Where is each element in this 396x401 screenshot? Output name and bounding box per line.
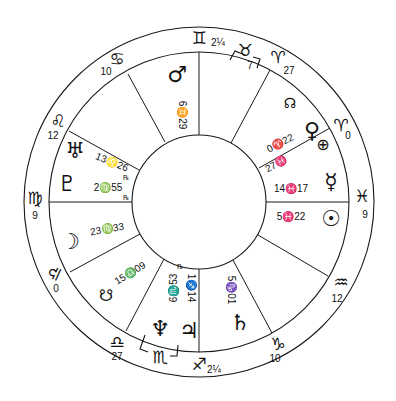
sign-taurus-intercepted: ♉ xyxy=(237,40,252,60)
sign-libra-bottom-degree: 27 xyxy=(111,351,123,362)
sign-capricorn-degree: 10 xyxy=(269,353,281,364)
pluto-position: 2♍55 xyxy=(94,181,123,194)
inner-circle xyxy=(132,135,266,269)
neptune-position: 6♏53 xyxy=(167,273,180,302)
sign-virgo: ♍ xyxy=(27,188,42,208)
sign-taurus-degree: 7 xyxy=(247,60,253,71)
cusp-line-11 xyxy=(231,70,270,143)
natal-chart-wheel: ♊ 2¼ ♉ 7 ♈ 27 ♈ 0 ♓ 9 ♒ 12 ♑ 10 ♐ 2¼ ♏ ♎… xyxy=(0,0,396,401)
jupiter-position: 1♐14 xyxy=(185,274,198,303)
sign-leo: ♌ xyxy=(50,111,65,131)
sign-cancer-degree: 10 xyxy=(100,66,112,77)
mercury-icon: ☿ xyxy=(324,169,338,194)
sun-position: 5♓22 xyxy=(277,210,306,223)
sign-leo-degree: 12 xyxy=(47,130,59,141)
house-cusps xyxy=(49,52,349,352)
sign-cancer: ♋ xyxy=(109,49,124,69)
south-node-position: 15♎09 xyxy=(112,258,148,287)
sign-aries-right-degree: 0 xyxy=(345,130,351,141)
north-node-icon: ☊ xyxy=(284,95,296,111)
sign-pisces-degree: 9 xyxy=(362,209,368,220)
saturn-icon: ♄ xyxy=(230,310,250,335)
sign-aquarius-degree: 12 xyxy=(331,293,343,304)
sign-sagittarius-degree: 2¼ xyxy=(207,364,222,375)
uranus-icon: ♅ xyxy=(65,138,85,163)
pluto-retrograde-mark: ℞ xyxy=(123,194,129,201)
venus-position: 0♈22 xyxy=(264,130,296,155)
sign-virgo-degree: 9 xyxy=(32,210,38,221)
sun-icon: ☉ xyxy=(321,206,341,231)
sign-sagittarius: ♐ xyxy=(191,354,206,374)
saturn-position: 5♑01 xyxy=(225,276,238,305)
sign-scorpio-intercepted: ♏ xyxy=(152,347,167,367)
sign-libra-left-degree: 0 xyxy=(53,283,59,294)
moon-position: 23♍33 xyxy=(89,220,125,239)
part-of-fortune-icon: ⊕ xyxy=(316,135,329,154)
part-of-fortune-position: 27♓ xyxy=(263,153,290,175)
sign-capricorn: ♑ xyxy=(270,334,285,354)
neptune-retrograde-mark: ℞ xyxy=(177,263,183,270)
uranus-position: 13♌26 xyxy=(94,150,131,175)
sign-gemini-degree: 2¼ xyxy=(211,37,226,48)
cusp-line-9 xyxy=(128,74,165,142)
sign-aries-top-degree: 27 xyxy=(283,65,295,76)
sign-aquarius: ♒ xyxy=(333,272,348,292)
sign-pisces: ♓ xyxy=(354,186,369,206)
pluto-icon: ♇ xyxy=(57,171,77,196)
uranus-retrograde-mark: ℞ xyxy=(123,174,129,181)
moon-icon: ☽ xyxy=(60,229,80,254)
south-node-icon: ☋ xyxy=(99,286,113,305)
neptune-icon: ♆ xyxy=(150,316,170,341)
mars-icon: ♂ xyxy=(167,62,187,87)
cusp-line-2 xyxy=(258,235,328,276)
jupiter-icon: ♃ xyxy=(179,318,199,343)
mercury-position: 14♓17 xyxy=(274,182,309,195)
sign-libra-bottom: ♎ xyxy=(109,332,124,352)
mars-position: 6♊29 xyxy=(176,101,189,130)
sign-gemini: ♊ xyxy=(191,28,206,48)
